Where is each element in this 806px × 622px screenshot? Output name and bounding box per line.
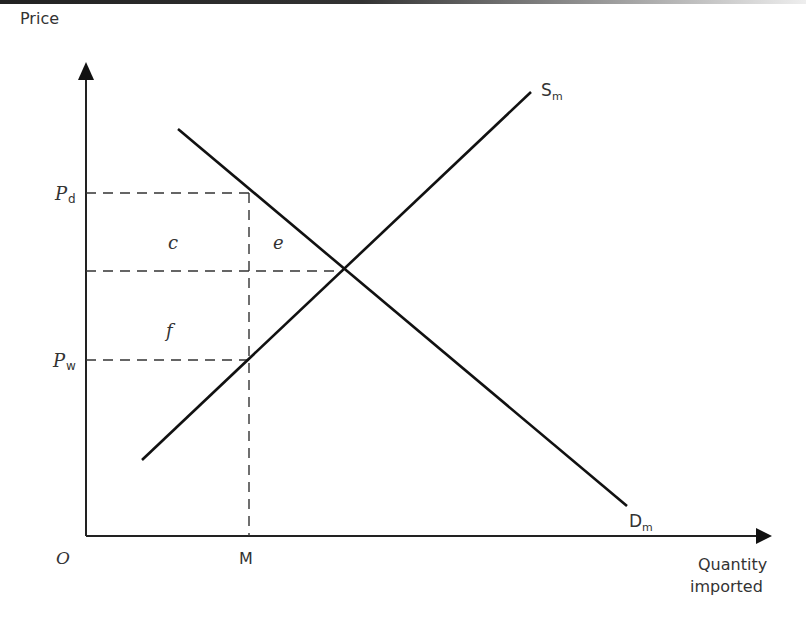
svg-text:m: m <box>642 521 653 534</box>
x-axis-arrow-icon <box>756 528 772 544</box>
import-market-diagram: Price Quantity imported O M P d P w S m … <box>0 0 806 622</box>
axes <box>78 62 772 544</box>
svg-text:P: P <box>54 183 68 204</box>
origin-label: O <box>56 548 70 568</box>
y-axis-arrow-icon <box>78 62 94 80</box>
svg-text:P: P <box>52 350 66 371</box>
demand-curve <box>178 129 627 506</box>
x-axis-label-line1: Quantity <box>698 555 767 574</box>
reference-lines <box>86 193 343 536</box>
m-label: M <box>239 549 253 568</box>
svg-text:m: m <box>552 90 563 103</box>
supply-curve-label: S m <box>541 80 563 103</box>
x-axis-label-line2: imported <box>690 577 763 596</box>
area-e-label: e <box>273 232 284 253</box>
svg-text:D: D <box>629 511 642 531</box>
demand-curve-label: D m <box>629 511 653 534</box>
area-c-label: c <box>168 232 178 253</box>
area-f-label: f <box>164 320 176 341</box>
svg-text:w: w <box>66 359 76 373</box>
pd-label: P d <box>54 183 76 206</box>
pw-label: P w <box>52 350 76 373</box>
svg-text:S: S <box>541 80 552 100</box>
svg-text:d: d <box>68 192 76 206</box>
y-axis-label: Price <box>20 9 59 28</box>
